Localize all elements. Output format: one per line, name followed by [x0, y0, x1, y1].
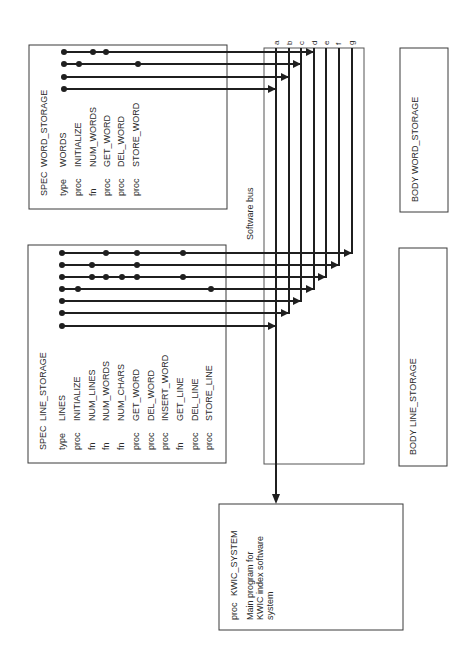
word-storage-body-border [400, 48, 448, 212]
connection-dot [76, 61, 82, 67]
connection-dot [59, 274, 65, 280]
bus-line-label-a: a [272, 40, 281, 45]
connection-dot [134, 262, 140, 268]
spec-entry-kind: fn [175, 442, 185, 450]
connection-dot [208, 286, 214, 292]
line-storage-body-box: BODY LINE_STORAGE [399, 248, 447, 466]
kwic-system-description-line: system [265, 591, 275, 620]
spec-entry-kind: proc [146, 432, 156, 450]
connection-dot [134, 250, 140, 256]
spec-entry-kind: type [58, 179, 68, 196]
connection-dot [75, 286, 81, 292]
spec-entry-kind: proc [102, 178, 112, 196]
word-storage-body-name: WORD_STORAGE [410, 97, 420, 174]
spec-entry-name: NUM_WORDS [101, 361, 111, 421]
kwic-system-name: KWIC_SYSTEM [229, 530, 239, 596]
arrowhead-icon [344, 249, 352, 257]
spec-entry-name: STORE_LINE [204, 365, 214, 421]
spec-entry-name: WORDS [58, 133, 68, 168]
spec-entry-name: DEL_WORD [146, 369, 156, 421]
spec-entry-name: DEL_LINE [190, 378, 200, 421]
kwic-system-description-line: Main program for [245, 551, 255, 620]
word-storage-spec-box: SPEC WORD_STORAGE type WORDS proc INITIA… [29, 45, 227, 209]
bus-line-label-b: b [285, 40, 294, 45]
line-storage-spec-name: LINE_STORAGE [38, 352, 48, 421]
connection-dot [103, 274, 109, 280]
line-storage-connections [59, 249, 352, 330]
spec-entry-kind: proc [190, 432, 200, 450]
spec-entry-name: GET_LINE [175, 377, 185, 421]
connection-dot [59, 323, 65, 329]
software-bus: Software bus a b c d e f g [245, 40, 364, 504]
software-bus-diagram: SPEC WORD_STORAGE type WORDS proc INITIA… [0, 0, 469, 659]
connection-dot [59, 286, 65, 292]
arrowhead-icon [272, 494, 280, 504]
connection-dot [59, 250, 65, 256]
word-storage-body-keyword: BODY [410, 176, 420, 202]
arrowhead-icon [268, 85, 276, 93]
word-storage-body-box: BODY WORD_STORAGE [400, 48, 448, 212]
word-storage-spec-keyword: SPEC [39, 171, 49, 196]
bus-line-label-f: f [334, 42, 343, 45]
spec-entry-kind: fn [87, 442, 97, 450]
bus-line-label-e: e [322, 40, 331, 45]
spec-entry-name: NUM_WORDS [88, 107, 98, 167]
software-bus-label: Software bus [245, 187, 255, 240]
spec-entry-name: LINES [57, 395, 67, 421]
connection-dot [103, 250, 109, 256]
spec-entry-kind: fn [88, 188, 98, 196]
line-storage-spec-keyword: SPEC [38, 425, 48, 450]
arrowhead-icon [281, 73, 289, 81]
arrowhead-icon [306, 285, 314, 293]
arrowhead-icon [318, 273, 326, 281]
spec-entry-name: DEL_WORD [116, 115, 126, 167]
line-storage-body-name: LINE_STORAGE [408, 358, 418, 427]
arrowhead-icon [331, 261, 339, 269]
spec-entry-kind: proc [160, 432, 170, 450]
connection-dot [134, 274, 140, 280]
spec-entry-kind: fn [101, 442, 111, 450]
line-storage-body-border [399, 248, 447, 466]
bus-line-label-c: c [297, 41, 306, 45]
spec-entry-kind: proc [73, 178, 83, 196]
connection-dot [59, 298, 65, 304]
spec-entry-kind: proc [131, 178, 141, 196]
spec-entry-kind: type [57, 433, 67, 450]
spec-entry-name: NUM_CHARS [116, 364, 126, 421]
connection-dot [61, 74, 67, 80]
connection-dot [61, 61, 67, 67]
spec-entry-kind: proc [131, 432, 141, 450]
connection-dot [89, 262, 95, 268]
bus-line-label-g: g [347, 41, 356, 45]
spec-entry-name: INITIALIZE [73, 122, 83, 167]
spec-entry-name: GET_WORD [131, 368, 141, 421]
spec-entry-kind: fn [116, 442, 126, 450]
arrowhead-icon [293, 60, 301, 68]
word-storage-spec-name: WORD_STORAGE [39, 90, 49, 167]
spec-entry-kind: proc [204, 432, 214, 450]
connection-dot [119, 274, 125, 280]
connection-dot [89, 274, 95, 280]
spec-entry-kind: proc [72, 432, 82, 450]
connection-dot [61, 49, 67, 55]
kwic-system-description-line: KWIC index software [255, 536, 265, 620]
connection-dot [59, 310, 65, 316]
connection-dot [180, 250, 186, 256]
connection-dot [90, 49, 96, 55]
kwic-system-box: proc KWIC_SYSTEM Main program for KWIC i… [219, 504, 403, 630]
arrowhead-icon [268, 322, 276, 330]
spec-entry-name: STORE_WORD [131, 102, 141, 167]
connection-dot [61, 86, 67, 92]
connection-dot [103, 49, 109, 55]
arrowhead-icon [306, 48, 314, 56]
bus-line-label-d: d [310, 41, 319, 45]
connection-dot [135, 61, 141, 67]
spec-entry-name: INITIALIZE [72, 376, 82, 421]
spec-entry-name: INSERT_WORD [160, 354, 170, 421]
arrowhead-icon [281, 309, 289, 317]
connection-dot [180, 274, 186, 280]
connection-dot [59, 262, 65, 268]
line-storage-body-keyword: BODY [408, 429, 418, 455]
spec-entry-kind: proc [116, 178, 126, 196]
spec-entry-name: GET_WORD [102, 114, 112, 167]
